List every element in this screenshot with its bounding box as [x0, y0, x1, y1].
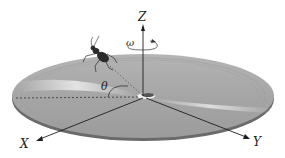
x-axis-label: X	[19, 137, 29, 151]
y-arrow-icon	[243, 134, 250, 139]
z-arrow-icon	[141, 24, 145, 31]
x-arrow-icon	[36, 136, 43, 141]
omega-label: ω	[126, 37, 134, 48]
y-axis-label: Y	[253, 135, 262, 149]
diagram-canvas: Z X Y ω θ	[0, 0, 285, 158]
z-axis-label: Z	[137, 10, 147, 24]
theta-label: θ	[101, 80, 108, 93]
